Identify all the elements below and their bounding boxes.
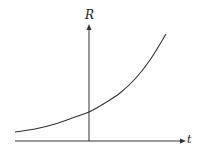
x-axis-label: t — [187, 134, 191, 145]
chart-canvas — [0, 0, 205, 151]
y-axis-label: R — [85, 9, 94, 21]
y-axis-arrow-icon — [87, 24, 92, 30]
x-axis-arrow-icon — [180, 139, 186, 144]
growth-curve — [15, 34, 166, 132]
